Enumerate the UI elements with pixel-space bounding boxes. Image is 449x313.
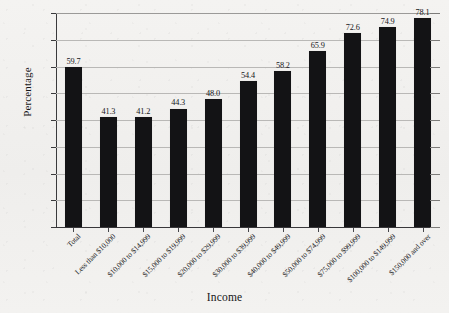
bar [135, 117, 152, 227]
y-axis-tick-right [430, 40, 440, 41]
x-axis-tick [423, 228, 424, 232]
x-axis-title: Income [0, 291, 449, 303]
x-axis-tick [178, 228, 179, 232]
x-axis-tick [248, 228, 249, 232]
bar [240, 81, 257, 227]
plot-area: 59.741.341.244.348.054.458.265.972.674.9… [56, 13, 440, 227]
y-axis-tick [51, 120, 56, 121]
y-axis-tick [51, 174, 56, 175]
gridline [56, 13, 440, 14]
y-axis-tick [51, 93, 56, 94]
y-axis-tick-right [430, 93, 440, 94]
y-axis-tick [51, 147, 56, 148]
bar-value-label: 54.4 [228, 71, 268, 80]
y-axis-tick-right [430, 120, 440, 121]
x-axis-tick [213, 228, 214, 232]
bar [205, 99, 222, 227]
y-axis-tick-right [430, 147, 440, 148]
x-axis-tick [143, 228, 144, 232]
x-axis-tick [283, 228, 284, 232]
x-axis-tick [353, 228, 354, 232]
x-axis-tick [73, 228, 74, 232]
bar-value-label: 48.0 [193, 89, 233, 98]
bar [379, 27, 396, 227]
bar-value-label: 74.9 [368, 17, 408, 26]
y-axis-tick [51, 227, 56, 228]
bar [344, 33, 361, 227]
y-axis-tick [51, 13, 56, 14]
bar-value-label: 44.3 [158, 98, 198, 107]
bar [414, 18, 431, 227]
x-axis-tick [108, 228, 109, 232]
bar-value-label: 58.2 [263, 61, 303, 70]
y-axis-tick-right [430, 13, 440, 14]
y-axis-tick-right [430, 227, 440, 228]
bar [309, 51, 326, 227]
y-axis-tick [51, 67, 56, 68]
bar [170, 109, 187, 228]
x-axis-tick-label: Total [66, 232, 83, 249]
x-axis-tick [318, 228, 319, 232]
x-axis-tick [388, 228, 389, 232]
bar-value-label: 41.2 [123, 107, 163, 116]
bar [65, 67, 82, 227]
bar-value-label: 65.9 [298, 41, 338, 50]
bar [100, 117, 117, 227]
bar-chart: Percentage 59.741.341.244.348.054.458.26… [0, 0, 449, 313]
bar-value-label: 59.7 [53, 57, 93, 66]
y-axis-tick [51, 200, 56, 201]
y-axis-title: Percentage [21, 32, 33, 152]
y-axis-tick [51, 40, 56, 41]
y-axis-tick-right [430, 200, 440, 201]
y-axis-tick-right [430, 174, 440, 175]
y-axis-tick-right [430, 67, 440, 68]
bar [274, 71, 291, 227]
